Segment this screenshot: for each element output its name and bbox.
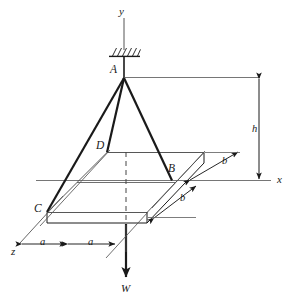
diagram-svg [0, 0, 290, 304]
point-label-d: D [96, 140, 104, 152]
figure-canvas: y x z A B C D h a a b b W [0, 0, 290, 304]
dimension-label-h: h [252, 124, 257, 135]
z-axis-label: z [11, 246, 15, 257]
projection-guides [40, 150, 205, 258]
y-axis-label: y [119, 6, 124, 17]
dimension-label-a-right: a [88, 237, 93, 248]
cables [47, 78, 172, 212]
cable-ac [47, 78, 124, 212]
weight-label-w: W [121, 283, 130, 294]
point-label-c: C [34, 203, 42, 215]
dimension-label-b-lower: b [180, 193, 185, 204]
dimension-label-b-upper: b [222, 156, 227, 167]
dimension-label-a-left: a [40, 237, 45, 248]
a-dimension-lines [22, 225, 126, 252]
point-label-b: B [168, 163, 175, 175]
cable-ab [124, 78, 172, 181]
cable-ad [107, 78, 124, 153]
point-label-a: A [110, 64, 117, 76]
x-axis-label: x [277, 174, 282, 185]
